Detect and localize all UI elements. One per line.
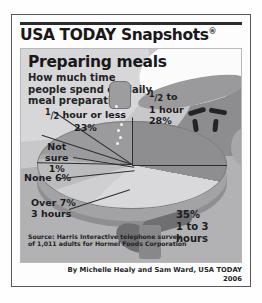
label-percent: 35%: [176, 209, 209, 221]
source-note: Source: Harris Interactive telephone sur…: [28, 233, 188, 248]
masthead-rule: [20, 22, 242, 25]
byline-year: 2006: [20, 275, 242, 284]
snapshot-infographic: USA TODAY Snapshots® Preparing meals How…: [0, 0, 262, 303]
masthead-brand-text: USA TODAY Snapshots: [20, 26, 209, 44]
fraction-denominator: /2: [51, 112, 60, 121]
chart-panel: Preparing meals How much time people spe…: [20, 48, 242, 263]
pie-divider-2: [132, 118, 133, 166]
label-text-line2: 1 hour: [149, 104, 184, 115]
label-percent: 23%: [45, 122, 126, 133]
label-text-line1: 1 to 3: [176, 221, 209, 233]
label-text-line1: Not: [45, 141, 69, 152]
label-half-to-one-hour: 1/2 to 1 hour 28%: [149, 89, 184, 126]
page-title: Preparing meals: [28, 53, 167, 71]
registered-mark-icon: ®: [209, 27, 217, 36]
fraction-denominator: /2: [155, 94, 164, 103]
masthead-brand: USA TODAY Snapshots®: [20, 26, 245, 44]
byline-credit: By Michelle Healy and Sam Ward, USA TODA…: [68, 266, 242, 274]
label-text-line1: to: [163, 91, 177, 102]
label-not-sure: Not sure 1%: [45, 141, 69, 174]
label-percent: 28%: [149, 115, 184, 126]
byline: By Michelle Healy and Sam Ward, USA TODA…: [20, 266, 242, 284]
label-text: hour or less: [62, 109, 126, 120]
label-text-line1: Over: [31, 197, 56, 208]
page-subtitle: How much time people spend on daily meal…: [28, 72, 153, 107]
label-text: None: [24, 172, 52, 183]
label-half-hour-or-less: 1/2 hour or less 23%: [45, 107, 126, 133]
pie-divider-1: [132, 165, 227, 166]
label-text-line2: sure: [45, 152, 69, 163]
